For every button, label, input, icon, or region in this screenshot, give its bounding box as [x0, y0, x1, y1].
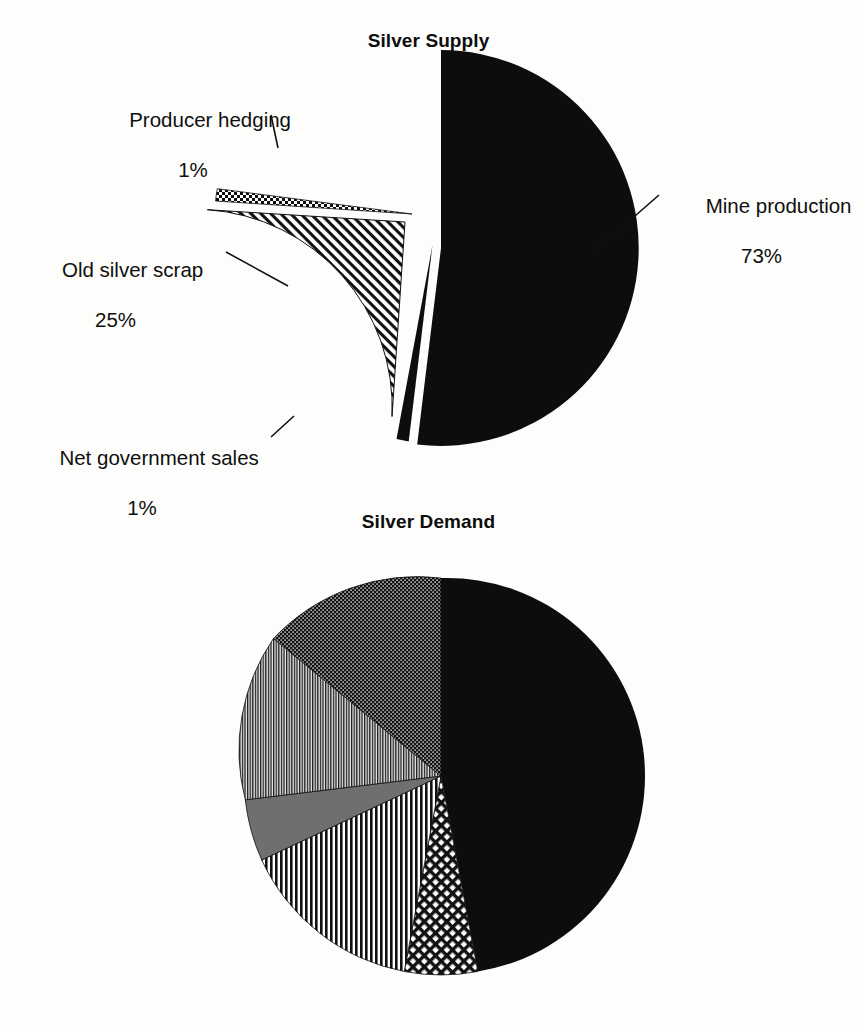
label-mine-production-name: Mine production	[706, 194, 852, 217]
figure-page: Silver Supply	[0, 0, 857, 1030]
label-old-silver-scrap-name: Old silver scrap	[62, 258, 203, 281]
label-producer-hedging-name: Producer hedging	[129, 108, 291, 131]
silver-demand-chart: Silver Demand	[0, 495, 857, 1030]
label-mine-production: Mine production 73%	[664, 168, 857, 318]
label-mine-production-pct: 73%	[664, 243, 857, 268]
supply-slice-mine-production	[417, 50, 639, 446]
label-net-government-sales-name: Net government sales	[59, 446, 258, 469]
leader-line-old-silver-scrap	[226, 252, 288, 286]
demand-pie-svg	[0, 495, 857, 1030]
label-old-silver-scrap-pct: 25%	[8, 307, 223, 332]
demand-slice-industrial-applications	[441, 578, 645, 972]
label-producer-hedging: Producer hedging 1%	[88, 82, 298, 232]
label-old-silver-scrap: Old silver scrap 25%	[8, 232, 223, 382]
silver-supply-chart: Silver Supply	[0, 0, 857, 500]
leader-line-net-government-sales	[271, 416, 294, 437]
supply-slice-old-silver-scrap	[207, 210, 405, 417]
label-producer-hedging-pct: 1%	[88, 157, 298, 182]
